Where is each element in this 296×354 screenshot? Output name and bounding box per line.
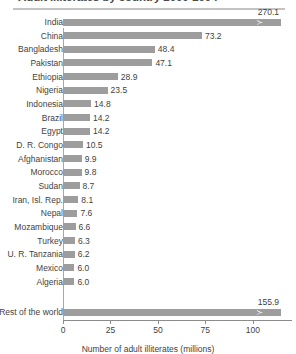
bar-category-label: Iran, Isl. Rep. [0,195,63,205]
bar [63,32,202,39]
bar-value-label: 6.0 [77,277,89,287]
bar-value-label: 73.2 [205,31,222,41]
bar [63,128,90,135]
bar [63,237,75,244]
bar [63,210,77,217]
bar [63,223,76,230]
chart-title: Adult illiterates by country 2000-2004 [18,0,217,3]
bar [63,46,155,53]
bar-value-label: 10.5 [86,140,103,150]
title-divider [13,8,285,10]
axis-break-icon: ≻ [255,309,264,316]
bar-row: Afghanistan9.9 [0,154,296,168]
bar-category-label: Morocco [0,167,63,177]
bar [63,182,80,189]
bar-category-label: D. R. Congo [0,140,63,150]
bar-value-label: 9.9 [85,154,97,164]
bar-row: Turkey6.3 [0,236,296,250]
bar-category-label: Rest of the world [0,307,63,317]
bar-category-label: Sudan [0,181,63,191]
bar-value-label: 9.8 [85,167,97,177]
bar [63,73,118,80]
bar-category-label: U. R. Tanzania [0,249,63,259]
bar-category-label: Pakistan [0,58,63,68]
bar-category-label: Nigeria [0,85,63,95]
bar-value-label: 28.9 [121,72,138,82]
bar-row: Bangladesh48.4 [0,44,296,58]
x-axis-tick [110,320,111,324]
bar-value-label: 155.9 [258,297,279,307]
bar-row: D. R. Congo10.5 [0,140,296,154]
bar [63,251,75,258]
bar [63,141,83,148]
bar-row: Pakistan47.1 [0,58,296,72]
bar-category-label: Indonesia [0,99,63,109]
x-axis-tick [63,320,64,324]
bar-row: Rest of the world≻155.9 [0,307,296,321]
bar-category-label: Afghanistan [0,154,63,164]
bar-row: Mexico6.0 [0,263,296,277]
bar-value-label: 8.1 [81,195,93,205]
x-axis-tick [253,320,254,324]
bar-row: China73.2 [0,31,296,45]
bar [63,59,152,66]
x-axis-tick [158,320,159,324]
bar-value-label: 6.6 [79,222,91,232]
bar-category-label: Mozambique [0,222,63,232]
x-axis-tick-label: 100 [238,325,268,335]
x-axis-title: Number of adult illiterates (millions) [0,344,296,354]
bar-value-label: 6.2 [78,249,90,259]
bar [63,19,281,26]
bar [63,155,82,162]
bar-value-label: 6.3 [78,236,90,246]
bar-value-label: 7.6 [80,208,92,218]
bar-value-label: 47.1 [155,58,172,68]
bar-row: Ethiopia28.9 [0,72,296,86]
bar-value-label: 23.5 [111,85,128,95]
bar-row: Sudan8.7 [0,181,296,195]
bar-category-label: Mexico [0,263,63,273]
bar-value-label: 14.8 [94,99,111,109]
bar [63,264,74,271]
bar-row: Egypt14.2 [0,126,296,140]
bar-row: Mozambique6.6 [0,222,296,236]
bar-row: India≻270.1 [0,17,296,31]
bar [63,278,74,285]
x-axis-tick-label: 75 [190,325,220,335]
chart-plot-area: India≻270.1China73.2Bangladesh48.4Pakist… [0,14,296,351]
bar-category-label: Nepal [0,208,63,218]
bar-row: Nigeria23.5 [0,85,296,99]
bar-category-label: Bangladesh [0,44,63,54]
bar-row: Algeria6.0 [0,277,296,291]
bar-category-label: Egypt [0,126,63,136]
bar [63,87,108,94]
bar-category-label: Brazil [0,113,63,123]
bar-category-label: China [0,31,63,41]
bar-value-label: 270.1 [258,7,279,17]
x-axis-tick [205,320,206,324]
bar [63,169,82,176]
bar-row: Iran, Isl. Rep.8.1 [0,195,296,209]
bar-value-label: 6.0 [77,263,89,273]
axis-break-icon: ≻ [255,19,264,26]
x-axis-tick-label: 0 [48,325,78,335]
bar-row: Indonesia14.8 [0,99,296,113]
bar-category-label: India [0,17,63,27]
bar-row: Nepal7.6 [0,208,296,222]
bar [63,309,281,316]
bar-row: Morocco9.8 [0,167,296,181]
x-axis-tick-label: 50 [143,325,173,335]
bar-row: U. R. Tanzania6.2 [0,249,296,263]
bar [63,100,91,107]
x-axis-line [63,320,292,321]
bar-category-label: Turkey [0,236,63,246]
bar-value-label: 14.2 [93,126,110,136]
bar [63,196,78,203]
bar [63,114,90,121]
bar-value-label: 8.7 [83,181,95,191]
bar-value-label: 48.4 [158,44,175,54]
x-axis-tick-label: 25 [95,325,125,335]
bar-value-label: 14.2 [93,113,110,123]
bar-row: Brazil14.2 [0,113,296,127]
bar-category-label: Algeria [0,277,63,287]
